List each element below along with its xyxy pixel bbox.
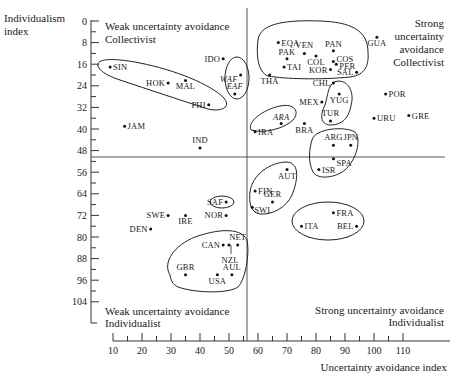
data-point-gbr: GBR: [176, 262, 194, 277]
data-point-arg: ARG: [324, 132, 343, 147]
x-tick-label: 40: [195, 345, 205, 356]
point-label: IND: [192, 135, 208, 145]
point-label: ISR: [322, 165, 336, 175]
point-marker-icon: [349, 144, 352, 147]
point-label: SIN: [113, 62, 127, 72]
point-label: GER: [264, 189, 282, 199]
y-axis-ticks: 081624324048566472808896104: [72, 16, 99, 324]
data-point-fra: FRA: [332, 208, 354, 218]
point-label: BEL: [337, 221, 354, 231]
point-label: IDO: [204, 54, 220, 64]
point-marker-icon: [225, 200, 228, 203]
point-label: JAM: [128, 121, 146, 131]
data-point-gre: GRE: [407, 111, 429, 121]
point-label: THA: [261, 76, 280, 86]
point-marker-icon: [300, 225, 303, 228]
scatter-chart: Individualism index Uncertainty avoidanc…: [0, 0, 459, 380]
point-label: TAI: [287, 62, 301, 72]
data-point-usa: USA: [209, 273, 227, 286]
data-point-nor: NOR: [205, 210, 228, 220]
data-point-swi: SWI: [251, 205, 271, 215]
point-label: KOR: [309, 65, 328, 75]
point-label: ITA: [305, 221, 320, 231]
point-marker-icon: [222, 244, 225, 247]
point-label: SPA: [336, 158, 352, 168]
x-tick-label: 70: [282, 345, 292, 356]
data-point-bra: BRA: [295, 122, 314, 135]
point-label: FRA: [336, 208, 354, 218]
point-label: AUL: [223, 262, 241, 272]
point-label: ARG: [324, 132, 343, 142]
data-point-phi: PHI: [191, 100, 210, 110]
point-marker-icon: [332, 49, 335, 52]
point-marker-icon: [184, 273, 187, 276]
point-marker-icon: [335, 63, 338, 66]
point-label: SWI: [254, 205, 270, 215]
point-marker-icon: [236, 244, 239, 247]
point-marker-icon: [303, 52, 306, 55]
x-tick-label: 60: [253, 345, 263, 356]
point-label: POR: [389, 89, 406, 99]
x-axis-title: Uncertainty avoidance index: [321, 361, 448, 373]
point-marker-icon: [149, 227, 152, 230]
point-marker-icon: [283, 65, 286, 68]
quadrant-label-top-right: Strong: [415, 17, 445, 29]
point-label: PHI: [191, 100, 205, 110]
point-marker-icon: [230, 273, 233, 276]
data-points: SINHOKMALPHIIDOWAFEAFJAMINDEQAVENPAKCOLP…: [109, 36, 430, 286]
data-point-pak: PAK: [279, 47, 296, 61]
y-tick-label: 104: [72, 296, 87, 307]
x-tick-label: 110: [396, 345, 411, 356]
y-tick-label: 64: [77, 188, 87, 199]
point-label: NOR: [205, 210, 224, 220]
data-point-mal: MAL: [176, 79, 196, 92]
point-marker-icon: [384, 92, 387, 95]
point-label: SWE: [147, 210, 166, 220]
point-marker-icon: [332, 211, 335, 214]
point-label: GBR: [176, 262, 194, 272]
point-label: VEN: [295, 40, 313, 50]
data-point-ido: IDO: [204, 54, 224, 64]
x-tick-label: 20: [137, 345, 147, 356]
point-label: PAK: [279, 47, 296, 57]
data-point-bel: BEL: [337, 221, 358, 231]
data-point-jpn: JPN: [343, 132, 358, 147]
quadrant-label-bottom-left: Individualist: [105, 317, 161, 329]
point-marker-icon: [332, 60, 335, 63]
y-tick-label: 0: [82, 16, 87, 27]
y-tick-label: 40: [77, 124, 87, 135]
y-axis-title-line1: Individualism: [4, 12, 66, 24]
data-point-net: NET: [229, 232, 247, 247]
point-label: IRA: [258, 127, 274, 137]
y-tick-label: 32: [77, 102, 87, 113]
y-axis-title-line2: index: [4, 25, 29, 37]
point-marker-icon: [199, 146, 202, 149]
point-label: USA: [209, 276, 227, 286]
data-point-swe: SWE: [147, 210, 170, 220]
point-label: URU: [377, 113, 396, 123]
point-marker-icon: [332, 157, 335, 160]
point-marker-icon: [277, 41, 280, 44]
x-tick-label: 10: [108, 345, 118, 356]
data-point-ira: IRA: [254, 127, 274, 137]
quadrant-label-bottom-right: Individualist: [388, 316, 444, 328]
data-point-hok: HOK: [146, 78, 170, 88]
data-point-kor: KOR: [309, 65, 332, 75]
data-point-tur: TUR: [322, 108, 340, 123]
data-point-ger: GER: [264, 189, 282, 204]
point-label: EAF: [226, 81, 244, 91]
quadrant-label-top-right: Collectivist: [393, 56, 444, 68]
y-tick-label: 48: [77, 145, 87, 156]
data-point-aut: AUT: [278, 168, 297, 181]
y-tick-label: 96: [77, 275, 87, 286]
point-label: HOK: [146, 78, 166, 88]
point-marker-icon: [109, 65, 112, 68]
data-point-ara: ARA: [272, 112, 290, 126]
data-point-uru: URU: [373, 113, 396, 123]
point-label: CHL: [313, 78, 331, 88]
point-label: SAL: [337, 67, 354, 77]
point-label: PAN: [325, 39, 342, 49]
point-label: GRE: [412, 111, 430, 121]
data-point-den: DEN: [130, 224, 153, 234]
point-label: TUR: [322, 108, 340, 118]
